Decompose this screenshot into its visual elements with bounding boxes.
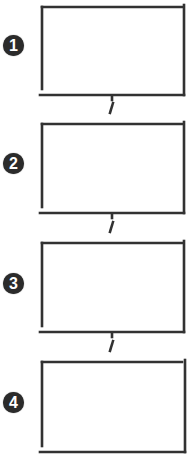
step-number-badge-2: 2 bbox=[3, 153, 24, 174]
step-box-4 bbox=[40, 360, 185, 452]
step-box-2 bbox=[40, 122, 184, 213]
connector-1-2 bbox=[110, 96, 113, 113]
flow-diagram bbox=[0, 0, 195, 466]
step-number-badge-3: 3 bbox=[3, 273, 24, 294]
connector-2-3 bbox=[110, 214, 113, 232]
step-box-3 bbox=[40, 241, 184, 332]
step-number-badge-4: 4 bbox=[3, 392, 24, 413]
connector-3-4 bbox=[110, 333, 113, 351]
step-box-1 bbox=[40, 5, 184, 95]
step-number-badge-1: 1 bbox=[3, 35, 24, 56]
